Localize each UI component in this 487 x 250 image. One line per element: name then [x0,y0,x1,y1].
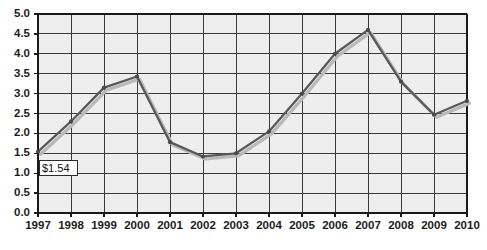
x-axis-tick-label: 2000 [124,219,150,231]
y-axis-tick-label: 5.0 [14,7,30,19]
x-axis-tick-label: 2008 [388,219,414,231]
data-point-marker [168,140,172,144]
x-axis-tick-label: 2005 [289,219,315,231]
y-axis-tick-label: 3.0 [14,87,30,99]
x-axis-tick-label: 2002 [190,219,216,231]
x-axis-tick-label: 2006 [322,219,348,231]
first-point-callout: $1.54 [39,161,77,176]
y-axis-tick-label: 1.5 [14,146,31,158]
y-axis-tick-label: 3.5 [14,67,31,79]
data-point-marker [36,150,40,154]
y-axis-tick-labels: 0.00.51.01.52.02.53.03.54.04.55.0 [14,7,31,218]
data-point-marker [300,92,304,96]
x-axis-tick-label: 1997 [25,219,51,231]
data-point-marker [234,151,238,155]
data-point-marker [102,86,106,90]
x-axis-tick-label: 2003 [223,219,249,231]
chart-canvas: 0.00.51.01.52.02.53.03.54.04.55.0 199719… [0,0,487,250]
x-axis-tick-label: 2004 [256,219,282,231]
data-point-marker [201,154,205,158]
line-chart: 0.00.51.01.52.02.53.03.54.04.55.0 199719… [0,0,487,250]
data-point-marker [399,80,403,84]
x-axis-tick-label: 2010 [454,219,480,231]
y-axis-tick-label: 2.5 [14,107,31,119]
data-point-marker [267,129,271,133]
data-point-marker [135,74,139,78]
x-axis-tick-label: 2009 [421,219,447,231]
callout-label: $1.54 [42,162,70,174]
x-axis-tick-label: 2001 [157,219,183,231]
data-point-marker [69,119,73,123]
data-point-marker [432,113,436,117]
data-point-marker [366,28,370,32]
y-axis-tick-label: 0.5 [14,186,31,198]
data-point-marker [465,99,469,103]
data-point-marker [333,52,337,56]
y-axis-tick-label: 4.5 [14,27,31,39]
y-axis-tick-label: 2.0 [14,126,30,138]
y-axis-tick-label: 4.0 [14,47,30,59]
x-axis-tick-label: 1998 [58,219,84,231]
y-axis-tick-label: 1.0 [14,166,30,178]
x-axis-tick-label: 1999 [91,219,117,231]
x-axis-tick-label: 2007 [355,219,381,231]
y-axis-tick-label: 0.0 [14,206,30,218]
